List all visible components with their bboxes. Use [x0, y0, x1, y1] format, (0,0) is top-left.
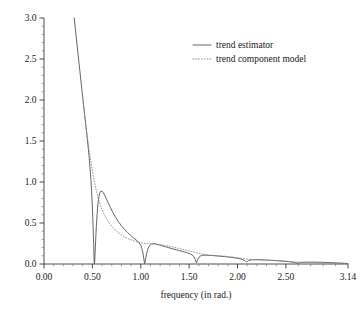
x-tick-label: 0.00: [36, 272, 53, 282]
x-tick-label: 2.00: [229, 272, 246, 282]
x-tick-label: 1.50: [181, 272, 198, 282]
y-tick-label: 3.0: [25, 13, 37, 23]
line-chart: 0.000.501.001.502.002.503.140.00.51.01.5…: [0, 0, 363, 312]
x-axis-title: frequency (in rad.): [161, 290, 232, 301]
y-tick-label: 0.5: [25, 218, 37, 228]
y-tick-label: 1.5: [25, 136, 37, 146]
chart-legend: trend estimatortrend component model: [193, 40, 307, 64]
data-series: [74, 18, 348, 264]
y-tick-label: 0.0: [25, 259, 37, 269]
x-tick-label: 1.00: [132, 272, 149, 282]
x-tick-label: 3.14: [340, 272, 357, 282]
y-tick-label: 2.0: [25, 95, 37, 105]
series-line-0: [74, 18, 348, 264]
x-tick-label: 0.50: [84, 272, 101, 282]
x-tick-label: 2.50: [278, 272, 295, 282]
legend-label-0: trend estimator: [216, 40, 274, 50]
y-tick-label: 2.5: [25, 54, 37, 64]
legend-label-1: trend component model: [216, 54, 307, 64]
series-line-1: [83, 103, 348, 263]
tick-labels: 0.000.501.001.502.002.503.140.00.51.01.5…: [25, 13, 357, 282]
y-tick-label: 1.0: [25, 177, 37, 187]
chart-figure: 0.000.501.001.502.002.503.140.00.51.01.5…: [0, 0, 363, 312]
